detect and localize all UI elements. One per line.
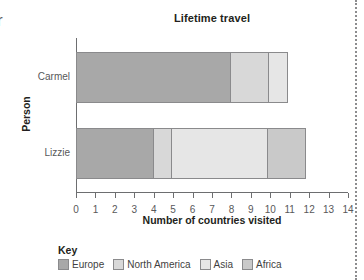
x-axis-tick [173, 193, 174, 198]
legend-swatch-icon [242, 259, 253, 270]
x-axis-tick [115, 193, 116, 198]
plot-area: 01234567891011121314CarmelLizzie [76, 38, 348, 193]
x-axis-tick [212, 193, 213, 198]
legend-label: Europe [72, 259, 104, 270]
x-axis-tick [193, 193, 194, 198]
bar-segment-europe [76, 52, 231, 103]
legend-label: Asia [214, 259, 233, 270]
x-axis-tick [309, 193, 310, 198]
x-axis-tick [231, 193, 232, 198]
legend-item-europe: Europe [58, 259, 104, 270]
x-axis-tick [154, 193, 155, 198]
bar-segment-north-america [153, 128, 172, 179]
bar-segment-asia [171, 128, 268, 179]
legend: EuropeNorth AmericaAsiaAfrica [58, 259, 282, 270]
x-axis-title: Number of countries visited [76, 214, 348, 226]
x-axis-tick [76, 193, 77, 198]
bar-segment-europe [76, 128, 154, 179]
x-axis-tick [270, 193, 271, 198]
legend-item-asia: Asia [200, 259, 233, 270]
legend-swatch-icon [200, 259, 211, 270]
cropped-edge-glyph: r [0, 12, 3, 29]
legend-item-north-america: North America [113, 259, 190, 270]
x-axis-tick [290, 193, 291, 198]
legend-label: North America [127, 259, 190, 270]
x-axis-tick [134, 193, 135, 198]
x-axis-tick [95, 193, 96, 198]
y-axis-category-label: Carmel [38, 71, 70, 82]
legend-swatch-icon [113, 259, 124, 270]
bar-segment-africa [267, 128, 306, 179]
x-axis-tick [251, 193, 252, 198]
y-axis-title: Person [20, 84, 32, 144]
x-axis-tick [329, 193, 330, 198]
y-axis-category-label: Lizzie [44, 147, 70, 158]
page-edge-dotted-border [355, 0, 357, 280]
bar-segment-north-america [230, 52, 269, 103]
bar-stack-lizzie [76, 128, 306, 179]
legend-label: Africa [256, 259, 282, 270]
chart-title: Lifetime travel [76, 12, 348, 24]
legend-title: Key [58, 244, 77, 256]
bar-stack-carmel [76, 52, 288, 103]
legend-item-africa: Africa [242, 259, 282, 270]
x-axis-tick [348, 193, 349, 198]
bar-segment-asia [268, 52, 287, 103]
legend-swatch-icon [58, 259, 69, 270]
